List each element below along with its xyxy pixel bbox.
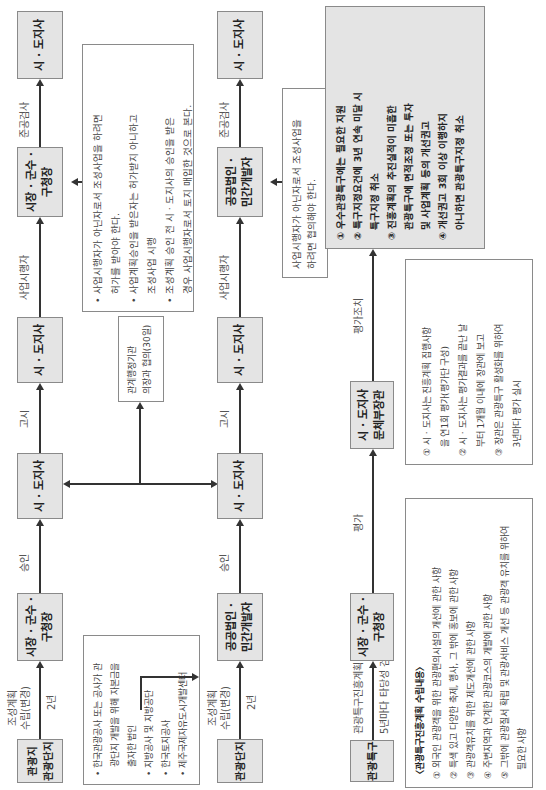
row1-label-plan: 조성계획 수립(변경)	[6, 686, 32, 730]
result-line: 아니하면 관광특구지정 취소	[451, 15, 468, 240]
row2-box-tourist-complex-label: 관광단지	[232, 741, 248, 781]
row1-box-governor-3: 시 · 도지사	[17, 11, 63, 79]
result-line: ③ 진흥계획의 추진실적이 미흡한	[383, 15, 400, 240]
row2-box-governor-1: 시 · 도지사	[217, 453, 263, 519]
row1-note-line: 조성사업 시행	[143, 53, 161, 303]
row3-result-box: ① 우수관광특구에는 필요한 지원 ② 특구지정요건에 3년 연속 미달 시 특…	[325, 6, 485, 249]
row2-box-governor-3-label: 시 · 도지사	[232, 19, 248, 71]
row3-arrow-2	[372, 455, 374, 593]
row1-box-tourist-site-label: 관광지 관광단지	[24, 741, 56, 781]
row1-arrow-3	[39, 389, 41, 453]
result-line: ④ 개선권고 3회 이상 이행하지	[434, 15, 451, 240]
row2-arrow-1	[239, 667, 241, 739]
row1-arrow-2	[39, 525, 41, 593]
row2-arrow-2-head	[236, 519, 244, 526]
row2-arrow-2	[239, 525, 241, 593]
row2-box-developer: 공공법인 · 민간개발자	[217, 593, 263, 661]
row2-arrow-3	[239, 389, 241, 453]
row2-arrow-3-head	[236, 383, 244, 390]
row3-arrow-1-head	[369, 661, 377, 668]
row2-box-developer-2-label: 공공법인 · 민간개발자	[224, 157, 256, 207]
row1-box-governor-3-label: 시 · 도지사	[32, 19, 48, 71]
result-line: ② 특구지정요건에 3년 연속 미달 시	[349, 15, 366, 240]
evaluation-line: 3년마다 평가 실시	[508, 268, 526, 456]
row2-label-approval: 승인	[218, 554, 231, 572]
evaluation-note: ① 시 · 도지사는 진흥계획 집행사항 을 연1회 평가(평가단 구성) ② …	[405, 259, 533, 465]
consult-branch-stem	[139, 409, 141, 484]
row1-label-operator: 사업시행자	[18, 255, 31, 300]
row3-arrow-1	[372, 667, 374, 740]
row1-arrow-1	[39, 667, 41, 739]
row2-note-arrow	[275, 181, 282, 183]
plan-contents-line: ④ 주변지역과 연계한 관광코스의 개발에 관한 사항	[480, 507, 497, 779]
row3-label-evaluation: 평가	[352, 514, 365, 532]
row1-arrow-4	[39, 223, 41, 317]
row2-box-governor-3: 시 · 도지사	[217, 11, 263, 79]
row2-label-completion: 준공검사	[218, 102, 231, 138]
public-developers-note: • 한국관광공사 또는 공사가 관 광단지 개발을 위해 자본금을 출자한 법인…	[83, 635, 200, 785]
row2-box-governor-2: 시 · 도지사	[217, 317, 263, 383]
row3-box-special-zone: 관광특구	[350, 740, 394, 782]
row2-label-2years: 2년	[245, 695, 258, 710]
row2-label-notice: 고시	[218, 410, 231, 428]
result-line: 관광특구에 면적조정 또는 투자	[400, 15, 417, 240]
row3-arrow-3-head	[369, 249, 377, 256]
developers-note-arrow-head	[192, 673, 199, 681]
evaluation-line: ① 시 · 도지사는 진흥계획 집행사항	[418, 268, 436, 456]
evaluation-line: ③ 장관은 관광특구 활성화를 위하여	[490, 268, 508, 456]
result-line: 및 사업계획 등의 개선권고	[417, 15, 434, 240]
row3-box-mayor: 시장 · 군수 · 구청장	[350, 593, 394, 661]
consult-branch-head-up	[63, 480, 70, 488]
row1-box-mayor-2-label: 시장 · 군수 · 구청장	[24, 152, 56, 212]
row3-label-plan: 관광특구진흥계획	[352, 662, 365, 734]
row1-label-2years: 2년	[45, 695, 58, 710]
evaluation-line: 을 연1회 평가(평가단 구성)	[436, 268, 454, 456]
developers-note-line: • 한국토지공사	[158, 644, 175, 776]
row2-consult-note: 사업시행자가 아닌자로서 조성사업을 하려면 협의해야 한다.	[282, 88, 328, 278]
row1-permit-note: • 사업시행자가 아닌자로서 조성사업을 하려면 허가를 받아야 한다. • 사…	[82, 44, 194, 312]
developers-note-line: • 제주국제자유도시개발센터	[175, 644, 192, 776]
row1-box-mayor: 시장 · 군수 · 구청장	[17, 593, 63, 661]
developers-note-connector-h	[140, 676, 142, 710]
row1-box-mayor-2: 시장 · 군수 · 구청장	[17, 147, 63, 217]
developers-note-line: • 한국관광공사 또는 공사가 관	[90, 644, 107, 776]
developers-note-line: 광단지 개발을 위해 자본금을	[107, 644, 124, 776]
row3-box-governor-minister: 시 · 도지사 문체부장관	[350, 381, 394, 449]
evaluation-line: 부터 1개월 이내에 장관에 보고	[472, 268, 490, 456]
row2-box-governor-2-label: 시 · 도지사	[232, 324, 248, 376]
row1-arrow-2-head	[36, 519, 44, 526]
row2-arrow-4	[239, 223, 241, 317]
row1-note-line: • 사업계획승인을 받은자는 허가받지 아니하고	[125, 53, 143, 303]
row1-arrow-5	[39, 85, 41, 147]
row1-note-line: 경우 사업시행자로서 토지 매입한 것으로 본다.	[179, 53, 197, 303]
row2-box-tourist-complex: 관광단지	[217, 739, 263, 783]
consult-branch-stem-head	[136, 402, 144, 409]
developers-note-line: • 지방공사 및 지방공단	[141, 644, 158, 776]
row3-box-mayor-label: 시장 · 군수 · 구청장	[356, 597, 388, 657]
row1-box-governor-2: 시 · 도지사	[17, 317, 63, 383]
row1-note-line: 허가를 받아야 한다.	[107, 53, 125, 303]
row1-note-line: • 조성계획 승인 전 시 · 도지사의 승인을 받은	[161, 53, 179, 303]
row2-arrow-5	[239, 85, 241, 147]
row1-box-governor-2-label: 시 · 도지사	[32, 324, 48, 376]
plan-contents-line: ① 외국인 관광객을 위한 관광편의시설의 개선에 관한 사항	[429, 507, 446, 779]
developers-note-connector-v	[140, 676, 192, 678]
row2-arrow-1-head	[236, 661, 244, 668]
row2-arrow-5-head	[236, 79, 244, 86]
row1-box-mayor-label: 시장 · 군수 · 구청장	[24, 597, 56, 657]
plan-contents-line: ③ 관광객유치를 위한 제도개선에 관한 사항	[463, 507, 480, 779]
row1-box-tourist-site: 관광지 관광단지	[17, 739, 63, 783]
row3-label-review: 5년마다 타당성 검토	[378, 649, 391, 734]
row2-box-developer-2: 공공법인 · 민간개발자	[217, 147, 263, 217]
result-line: 특구지정 취소	[366, 15, 383, 240]
result-line: ① 우수관광특구에는 필요한 지원	[332, 15, 349, 240]
row2-box-developer-label: 공공법인 · 민간개발자	[224, 602, 256, 652]
row3-box-governor-minister-label: 시 · 도지사 문체부장관	[356, 389, 388, 441]
consultation-note: 관계행정기관 의장과 협의(30일)	[118, 316, 164, 402]
row3-arrow-2-head	[369, 449, 377, 456]
row1-label-completion: 준공검사	[18, 102, 31, 138]
row3-box-special-zone-label: 관광특구	[364, 741, 380, 781]
developers-note-line: 출자한 법인	[124, 644, 141, 776]
row2-label-operator: 사업시행자	[218, 255, 231, 300]
row1-box-governor-1-label: 시 · 도지사	[32, 460, 48, 512]
